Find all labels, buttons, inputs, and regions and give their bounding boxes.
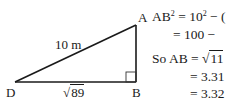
- radicand: 11: [209, 50, 223, 66]
- side-DA-hypotenuse: [15, 25, 136, 82]
- equation-line-3: So AB = √11: [152, 52, 223, 66]
- hypotenuse-length-label: 10 m: [55, 38, 81, 51]
- ten-term: = 10: [175, 9, 203, 24]
- minus-term: − (: [207, 9, 226, 24]
- equation-line-4: = 3.31: [190, 70, 225, 84]
- vertex-label-B: B: [132, 86, 141, 99]
- so-ab-prefix: So AB =: [152, 51, 202, 66]
- base-radicand: 89: [70, 84, 84, 100]
- equation-line-2: = 100 −: [173, 28, 215, 42]
- base-length-label: √89: [63, 86, 84, 99]
- vertex-label-D: D: [6, 86, 15, 99]
- equation-line-1: AB2 = 102 − (: [152, 10, 226, 24]
- vertex-label-A: A: [138, 11, 147, 24]
- equation-line-5: = 3.32: [190, 87, 225, 101]
- right-angle-marker: [126, 72, 136, 82]
- ab-term: AB: [152, 9, 171, 24]
